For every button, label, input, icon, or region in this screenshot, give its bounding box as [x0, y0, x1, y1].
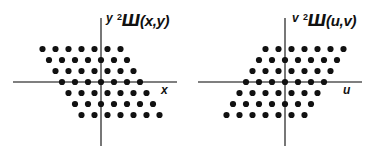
lattice-impulse-dot: [104, 112, 110, 118]
lattice-impulse-dot: [295, 57, 301, 63]
lattice-impulse-dot: [104, 68, 110, 74]
lattice-impulse-dot: [124, 57, 130, 63]
lattice-impulse-dot: [275, 90, 281, 96]
lattice-impulse-dot: [269, 57, 275, 63]
function-label-shah-xy: 2Ш(x,y): [117, 13, 169, 29]
lattice-impulse-dot: [314, 90, 320, 96]
lattice-impulse-dot: [85, 101, 91, 107]
lattice-impulse-dot: [104, 46, 110, 52]
lattice-impulse-dot: [308, 79, 314, 85]
lattice-impulse-dot: [275, 68, 281, 74]
lattice-impulse-dot: [65, 46, 71, 52]
lattice-impulse-dot: [117, 112, 123, 118]
lattice-impulse-dot: [78, 112, 84, 118]
lattice-impulse-dot: [111, 101, 117, 107]
lattice-impulse-dot: [243, 101, 249, 107]
lattice-impulse-dot: [39, 46, 45, 52]
axes-group-left: [13, 18, 177, 146]
shah-symbol: Ш: [122, 12, 140, 30]
lattice-impulse-dot: [130, 68, 136, 74]
lattice-impulse-dot: [230, 101, 236, 107]
lattice-impulse-dot: [117, 90, 123, 96]
lattice-impulse-dot: [262, 112, 268, 118]
lattice-impulse-dot: [72, 57, 78, 63]
lattice-impulse-dot: [262, 90, 268, 96]
lattice-impulse-dot: [78, 68, 84, 74]
lattice-impulse-dot: [249, 112, 255, 118]
lattice-impulse-dot: [52, 46, 58, 52]
lattice-impulse-dot: [124, 79, 130, 85]
lattice-impulse-dot: [78, 90, 84, 96]
axes-group-right: [198, 18, 362, 146]
lattice-impulse-dot: [301, 46, 307, 52]
lattice-impulse-dot: [249, 90, 255, 96]
shah-symbol: Ш: [308, 12, 326, 30]
lattice-impulse-dot: [223, 112, 229, 118]
lattice-impulse-dot: [98, 79, 104, 85]
v-axis-label: v: [292, 12, 299, 24]
lattice-impulse-dot: [104, 90, 110, 96]
lattice-impulse-dot: [275, 112, 281, 118]
lattice-impulse-dot: [334, 57, 340, 63]
lattice-impulse-dot: [282, 57, 288, 63]
lattice-impulse-dot: [98, 57, 104, 63]
lattice-impulse-dot: [308, 57, 314, 63]
lattice-impulse-dot: [275, 46, 281, 52]
lattice-impulse-dot: [288, 46, 294, 52]
lattice-impulse-dot: [321, 57, 327, 63]
lattice-impulse-dot: [78, 46, 84, 52]
lattice-impulse-dot: [288, 68, 294, 74]
lattice-impulse-dot: [65, 68, 71, 74]
lattice-impulse-dot: [72, 101, 78, 107]
figure-shah-lattice-pair: y 2Ш(x,y) x v 2Ш(u,v) u: [0, 0, 380, 154]
lattice-impulse-dot: [130, 90, 136, 96]
lattice-impulse-dot: [282, 101, 288, 107]
y-axis-label: y: [106, 12, 113, 24]
lattice-impulse-dot: [46, 57, 52, 63]
lattice-impulse-dot: [91, 90, 97, 96]
lattice-impulse-dot: [243, 79, 249, 85]
lattice-impulse-dot: [124, 101, 130, 107]
lattice-impulse-dot: [130, 112, 136, 118]
lattice-impulse-dot: [301, 90, 307, 96]
lattice-impulse-dot: [91, 112, 97, 118]
lattice-impulse-dot: [236, 112, 242, 118]
lattice-impulse-dot: [52, 68, 58, 74]
lattice-impulse-dot: [65, 90, 71, 96]
lattice-impulse-dot: [327, 46, 333, 52]
lattice-impulse-dot: [308, 101, 314, 107]
lattice-impulse-dot: [295, 101, 301, 107]
lattice-impulse-dot: [301, 68, 307, 74]
lattice-impulse-dot: [72, 79, 78, 85]
lattice-impulse-dot: [59, 57, 65, 63]
lattice-impulse-dot: [111, 57, 117, 63]
lattice-impulse-dot: [340, 46, 346, 52]
lattice-impulse-dot: [236, 90, 242, 96]
lattice-impulse-dot: [269, 101, 275, 107]
lattice-impulse-dot: [156, 112, 162, 118]
lattice-impulse-dot: [150, 101, 156, 107]
lattice-impulse-dot: [249, 68, 255, 74]
lattice-impulse-dot: [256, 57, 262, 63]
lattice-impulse-dot: [117, 46, 123, 52]
panel-frequency-domain: v 2Ш(u,v) u: [190, 0, 380, 154]
lattice-impulse-dot: [256, 79, 262, 85]
function-args: (x,y): [140, 12, 169, 29]
x-axis-label: x: [161, 84, 168, 96]
lattice-impulse-dot: [91, 68, 97, 74]
lattice-impulse-dot: [314, 68, 320, 74]
lattice-impulse-dot: [117, 68, 123, 74]
u-axis-label: u: [343, 84, 350, 96]
lattice-impulse-dot: [295, 79, 301, 85]
function-args: (u,v): [326, 12, 356, 29]
lattice-impulse-dot: [288, 90, 294, 96]
lattice-impulse-dot: [282, 79, 288, 85]
lattice-impulse-dot: [98, 101, 104, 107]
lattice-impulse-dot: [262, 68, 268, 74]
lattice-impulse-dot: [137, 101, 143, 107]
panel-spatial-domain: y 2Ш(x,y) x: [0, 0, 190, 154]
lattice-impulse-dot: [111, 79, 117, 85]
lattice-impulse-dot: [85, 79, 91, 85]
function-label-shah-uv: 2Ш(u,v): [303, 13, 356, 29]
lattice-impulse-dot: [262, 46, 268, 52]
